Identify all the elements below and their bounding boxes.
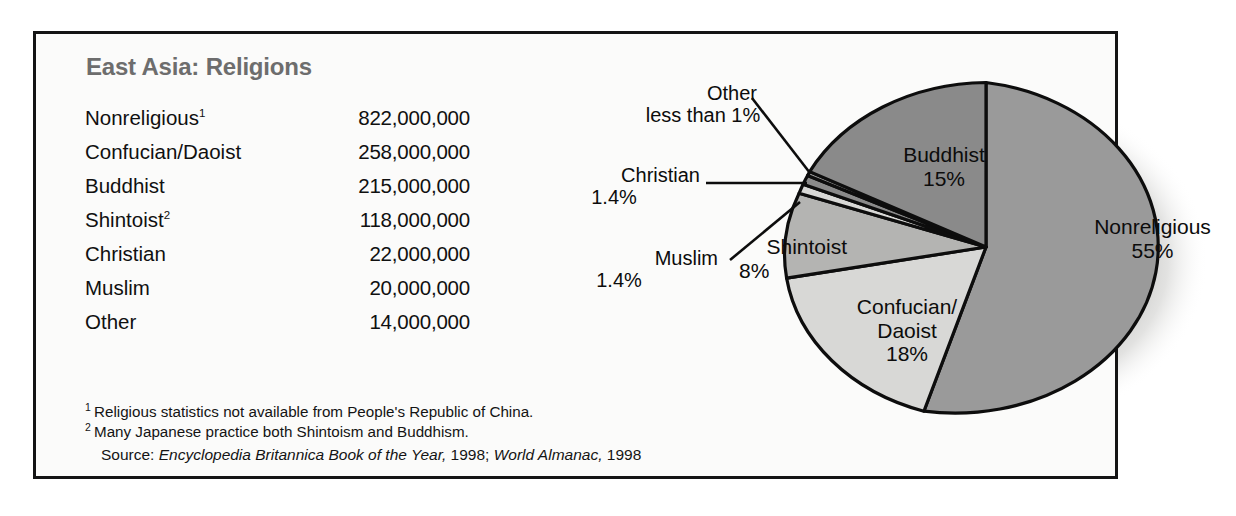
pie-label-shintoist-name: Shintoist [766, 235, 847, 258]
table-row-value: 822,000,000 [270, 106, 470, 130]
table-row-label: Muslim [85, 276, 270, 300]
pie-label-muslim-name: Muslim [655, 247, 718, 269]
figure-root: East Asia: Religions Nonreligious1 822,0… [0, 0, 1236, 516]
footnote-marker: 2 [164, 209, 170, 221]
table-row-label: Other [85, 310, 270, 334]
pie-label-muslim: Muslim 1.4% [550, 247, 718, 291]
table-row-value: 118,000,000 [270, 208, 470, 232]
label-text: Shintoist [85, 208, 164, 231]
pie-label-confucian-daoist-name-1: Confucian/ [857, 295, 957, 318]
table-row-label: Christian [85, 242, 270, 266]
pie-label-christian-name: Christian [621, 164, 700, 186]
table-row-value: 22,000,000 [270, 242, 470, 266]
pie-label-other-name: Other [588, 82, 818, 104]
pie-label-shintoist: Shintoist 8% [735, 235, 847, 282]
footnote-1-marker: 1 [85, 397, 91, 417]
label-text: Confucian/Daoist [85, 140, 241, 163]
table-row: Christian 22,000,000 [85, 242, 470, 276]
table-row: Nonreligious1 822,000,000 [85, 106, 470, 140]
source-title-1: Encyclopedia Britannica Book of the Year… [159, 446, 447, 463]
religion-table: Nonreligious1 822,000,000 Confucian/Daoi… [85, 106, 470, 344]
pie-label-buddhist: Buddhist 15% [878, 143, 1010, 190]
footnote-1-text: Religious statistics not available from … [94, 403, 533, 420]
source-prefix: Source: [101, 446, 159, 463]
footnote-2-marker: 2 [85, 417, 91, 437]
table-row-label: Nonreligious1 [85, 106, 270, 130]
pie-label-confucian-daoist-name-2: Daoist [877, 319, 937, 342]
label-text: Buddhist [85, 174, 165, 197]
table-row-value: 14,000,000 [270, 310, 470, 334]
pie-label-nonreligious: Nonreligious 55% [1070, 215, 1235, 262]
pie-label-buddhist-name: Buddhist [903, 143, 985, 166]
table-row-label: Buddhist [85, 174, 270, 198]
footnote-1: 1Religious statistics not available from… [85, 402, 725, 422]
table-row: Confucian/Daoist 258,000,000 [85, 140, 470, 174]
footnotes: 1Religious statistics not available from… [85, 402, 725, 466]
table-row: Shintoist2 118,000,000 [85, 208, 470, 242]
table-row: Muslim 20,000,000 [85, 276, 470, 310]
pie-label-buddhist-value: 15% [923, 167, 965, 190]
table-row: Buddhist 215,000,000 [85, 174, 470, 208]
table-row-value: 20,000,000 [270, 276, 470, 300]
source-year-1: 1998; [446, 446, 493, 463]
source-line: Source: Encyclopedia Britannica Book of … [85, 444, 725, 466]
label-text: Muslim [85, 276, 150, 299]
pie-label-christian-value: 1.4% [550, 186, 700, 208]
source-title-2: World Almanac, [494, 446, 603, 463]
label-text: Christian [85, 242, 166, 265]
pie-chart: Nonreligious 55% Confucian/ Daoist 18% B… [660, 50, 1236, 460]
pie-label-shintoist-value: 8% [735, 259, 847, 283]
table-row-label: Shintoist2 [85, 208, 270, 232]
pie-label-nonreligious-value: 55% [1131, 239, 1173, 262]
pie-label-other-value: less than 1% [588, 104, 818, 126]
footnote-marker: 1 [199, 107, 205, 119]
source-year-2: 1998 [602, 446, 641, 463]
table-row-value: 215,000,000 [270, 174, 470, 198]
pie-label-muslim-value: 1.4% [550, 269, 718, 291]
pie-label-nonreligious-name: Nonreligious [1094, 215, 1211, 238]
pie-label-confucian-daoist-value: 18% [886, 342, 928, 365]
pie-label-other: Other less than 1% [588, 82, 818, 126]
label-text: Nonreligious [85, 106, 199, 129]
label-text: Other [85, 310, 136, 333]
page-title: East Asia: Religions [86, 53, 312, 81]
footnote-2: 2Many Japanese practice both Shintoism a… [85, 422, 725, 442]
pie-label-confucian-daoist: Confucian/ Daoist 18% [832, 295, 982, 366]
footnote-2-text: Many Japanese practice both Shintoism an… [94, 423, 469, 440]
table-row: Other 14,000,000 [85, 310, 470, 344]
table-row-label: Confucian/Daoist [85, 140, 270, 164]
table-row-value: 258,000,000 [270, 140, 470, 164]
pie-label-christian: Christian 1.4% [550, 164, 700, 208]
